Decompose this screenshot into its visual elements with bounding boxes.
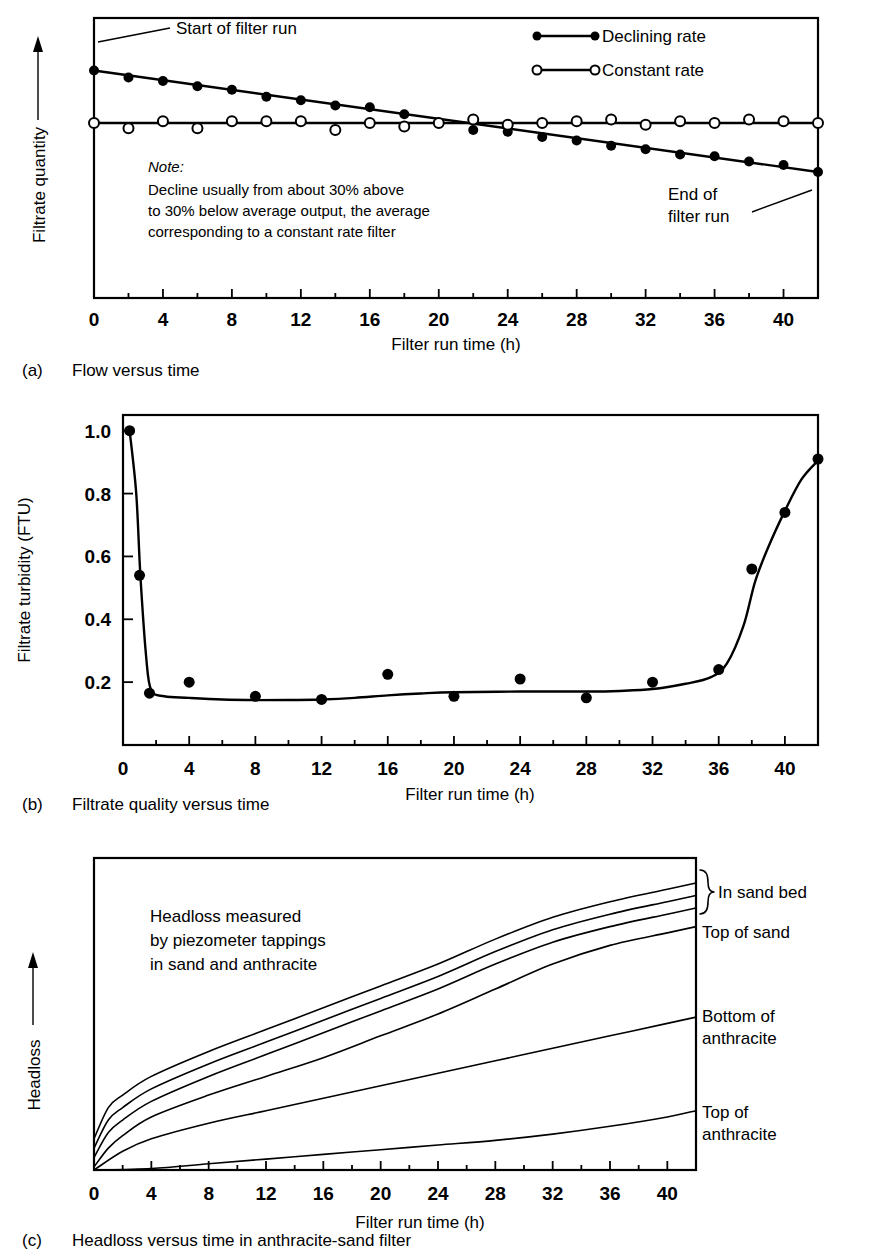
panel-c-y-axis-label: Headloss [25,1040,44,1111]
note-heading: Note: [148,158,184,175]
legend-item-constant-rate: Constant rate [533,61,705,80]
panel-b-data-point [746,564,757,575]
panel-c-x-tick-label: 12 [255,1183,276,1204]
side-label-in-sand-bed: In sand bed [718,883,807,902]
panel-b-x-tick-label: 32 [642,758,663,779]
start-of-filter-run-annotation: Start of filter run [98,19,297,42]
panel-c-x-tick-label: 36 [599,1183,620,1204]
panel-a-data-point [744,115,754,125]
end-of-filter-run-label-line2: filter run [668,207,729,226]
panel-a-caption-tag: (a) [22,361,43,380]
panel-b-data-point [647,677,658,688]
panel-a-data-point [503,120,513,130]
panel-b-x-ticks [123,736,818,745]
panel-a-data-point [89,118,99,128]
panel-b-x-tick-labels: 0481216202428323640 [118,758,796,779]
panel-b-filtrate-quality-versus-time: Filtrate turbidity (FTU) 0.20.40.60.81.0… [0,400,894,820]
panel-a-x-tick-label: 24 [497,309,519,330]
panel-b-x-tick-label: 28 [576,758,597,779]
panel-b-x-tick-label: 20 [443,758,464,779]
panel-a-data-point [123,123,133,133]
panel-a-data-point [330,125,340,135]
legend-marker-declining-left [533,32,542,41]
panel-c-y-axis-label-group: Headloss [25,952,44,1110]
panel-a-data-point [192,123,202,133]
panel-a-data-point [537,132,547,142]
panel-b-data-point [144,688,155,699]
panel-c-plot-frame [94,858,696,1170]
panel-a-x-tick-label: 12 [290,309,311,330]
legend-marker-declining-right [591,32,600,41]
panel-c-x-tick-label: 28 [485,1183,506,1204]
panel-b-data-point [448,691,459,702]
panel-c-inner-annotation: Headloss measured by piezometer tappings… [150,907,326,974]
panel-a-data-point [296,116,306,126]
panel-a-flow-versus-time: Filtrate quantity 0481216202428323640 St… [0,0,894,390]
panel-b-x-tick-label: 12 [311,758,332,779]
panel-c-x-tick-label: 16 [313,1183,334,1204]
panel-c-annotation-line-3: in sand and anthracite [150,955,317,974]
panel-a-x-tick-label: 8 [227,309,238,330]
panel-b-caption-text: Filtrate quality versus time [72,795,269,814]
panel-b-data-point [581,692,592,703]
panel-a-data-point [572,136,582,146]
note-line-3: corresponding to a constant rate filter [148,223,396,240]
panel-c-caption-tag: (c) [22,1231,42,1250]
legend-label-constant-rate: Constant rate [602,61,704,80]
panel-b-data-point [184,677,195,688]
panel-b-data-point [250,691,261,702]
legend-marker-constant-left [533,66,542,75]
panel-a-data-point [779,160,789,170]
panel-a-data-point [158,76,168,86]
panel-b-data-point [134,570,145,581]
panel-a-data-point [641,120,651,130]
panel-b-data-point [124,425,135,436]
panel-a-data-point [468,115,478,125]
panel-a-data-point [710,151,720,161]
panel-c-side-labels: In sand bed Top of sand Bottom of anthra… [702,883,807,1144]
panel-a-x-tick-label: 0 [89,309,100,330]
panel-b-x-tick-label: 40 [774,758,795,779]
panel-c-caption-text: Headloss versus time in anthracite-sand … [72,1231,412,1250]
panel-b-x-tick-label: 16 [377,758,398,779]
start-of-filter-run-label: Start of filter run [176,19,297,38]
panel-a-data-point [261,116,271,126]
panel-a-note: Note: Decline usually from about 30% abo… [148,158,430,240]
panel-b-data-point [779,507,790,518]
panel-a-data-point [399,109,409,119]
panel-a-data-point [537,118,547,128]
side-label-bottom-of-anthracite-line2: anthracite [702,1029,777,1048]
panel-c-annotation-line-1: Headloss measured [150,907,301,926]
panel-a-data-point [710,118,720,128]
end-of-filter-run-label-line1: End of [668,185,717,204]
panel-c-x-tick-labels: 0481216202428323640 [89,1183,678,1204]
panel-c-headloss-curves [94,883,696,1170]
side-label-bottom-of-anthracite-line1: Bottom of [702,1007,775,1026]
panel-a-data-point [365,102,375,112]
panel-a-data-point [434,118,444,128]
panel-a-data-point [744,157,754,167]
panel-c-x-tick-label: 0 [89,1183,100,1204]
panel-b-x-tick-label: 4 [184,758,195,779]
panel-b-caption-tag: (b) [22,795,43,814]
panel-b-data-point [713,664,724,675]
panel-a-data-point [296,95,306,105]
legend-item-declining-rate: Declining rate [533,27,706,46]
panel-c-annotation-line-2: by piezometer tappings [150,931,326,950]
note-line-2: to 30% below average output, the average [148,202,430,219]
panel-a-legend: Declining rate Constant rate [533,27,706,80]
panel-a-x-tick-label: 4 [158,309,169,330]
panel-a-data-point [813,118,823,128]
panel-a-data-point [813,167,823,177]
panel-b-x-tick-label: 24 [510,758,532,779]
panel-b-x-tick-label: 0 [118,758,129,779]
panel-a-data-point [365,118,375,128]
panel-a-data-point [330,101,340,111]
note-line-1: Decline usually from about 30% above [148,181,404,198]
panel-b-y-tick-label: 0.2 [85,672,111,693]
panel-b-data-point [316,694,327,705]
panel-c-curve [94,1111,696,1170]
panel-b-data-point [515,674,526,685]
panel-a-data-point [606,115,616,125]
panel-a-data-point [675,150,685,160]
